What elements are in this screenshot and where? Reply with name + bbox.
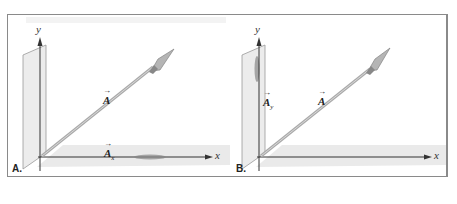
- panel-a-drawing: [8, 15, 230, 178]
- vector-arrow-symbol: →: [318, 87, 326, 96]
- component-ax-label: → Ax: [104, 147, 114, 162]
- component-ay-label: → Ay: [263, 96, 273, 111]
- panel-b-label: B.: [236, 163, 246, 174]
- panel-a: y x → A → Ax A.: [8, 15, 230, 178]
- vector-a-label: → A: [103, 94, 110, 106]
- vector-arrow-symbol: →: [263, 88, 271, 97]
- vector-arrow-symbol: →: [104, 139, 112, 148]
- panel-b: y x → A → Ay B.: [230, 15, 448, 178]
- figure-frame: y x → A → Ax A.: [7, 14, 448, 177]
- vector-a-label: → A: [318, 95, 325, 107]
- y-axis-label: y: [36, 23, 41, 35]
- y-axis-label: y: [255, 23, 260, 35]
- x-axis-label: x: [434, 149, 439, 161]
- vector-arrow-symbol: →: [103, 86, 111, 95]
- x-axis-label: x: [215, 149, 220, 161]
- panel-a-label: A.: [12, 163, 22, 174]
